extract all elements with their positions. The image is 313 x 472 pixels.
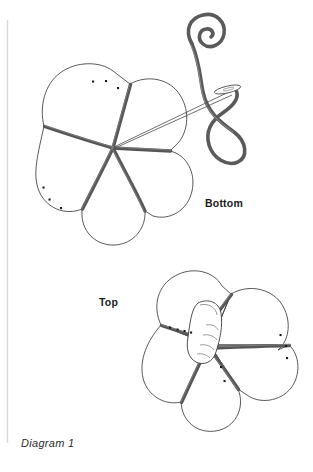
lower-seam-lines <box>162 295 290 403</box>
upper-seam-lines <box>45 85 171 212</box>
figure-caption: Diagram 1 <box>21 437 74 449</box>
upper-stitch-dots-top <box>92 80 119 89</box>
upper-seam-5 <box>83 148 114 209</box>
sewing-needle <box>114 83 241 148</box>
upper-seam-1 <box>45 127 114 149</box>
upper-seam-2 <box>113 85 131 149</box>
label-top: Top <box>99 296 118 308</box>
lower-seam-4 <box>212 352 239 390</box>
upper-pincushion-bottom-view: Bottom <box>36 14 245 245</box>
lower-pincushion-top-view: Top <box>99 271 298 432</box>
upper-seam-4 <box>113 148 145 211</box>
thumb-holding-center <box>187 301 221 364</box>
diagram-illustration: Bottom <box>0 0 313 472</box>
lower-petal-3 <box>210 345 298 400</box>
diagram-page: Bottom <box>0 0 313 472</box>
lower-petal-outlines <box>142 271 298 432</box>
upper-petal-2 <box>113 79 187 151</box>
upper-petal-4 <box>82 148 145 245</box>
upper-stitch-dots-left <box>43 187 63 210</box>
label-bottom: Bottom <box>205 197 243 209</box>
upper-petal-3 <box>113 148 193 217</box>
